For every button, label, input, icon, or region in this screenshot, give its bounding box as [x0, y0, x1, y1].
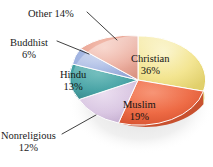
pie-label-christian: Christian 36% — [131, 53, 170, 76]
pie-label-other-text: Other 14% — [28, 8, 74, 19]
pie-label-muslim-value: 19% — [123, 111, 156, 123]
pie-label-muslim-name: Muslim — [123, 99, 156, 111]
pie-label-buddhist-name: Buddhist — [10, 37, 48, 49]
pie-label-christian-value: 36% — [131, 65, 170, 77]
pie-label-nonreligious-value: 12% — [1, 142, 56, 154]
leader-line-other — [87, 12, 117, 40]
pie-label-hindu: Hindu 13% — [60, 69, 86, 92]
pie-chart-figure: Other 14% Buddhist 6% Nonreligious 12% C… — [0, 0, 213, 167]
pie-label-buddhist-value: 6% — [10, 49, 48, 61]
pie-label-nonreligious: Nonreligious 12% — [1, 130, 56, 153]
pie-label-hindu-value: 13% — [60, 81, 86, 93]
pie-label-muslim: Muslim 19% — [123, 99, 156, 122]
pie-label-nonreligious-name: Nonreligious — [1, 130, 56, 142]
pie-label-hindu-name: Hindu — [60, 69, 86, 81]
pie-label-other: Other 14% — [28, 8, 74, 20]
pie-label-buddhist: Buddhist 6% — [10, 37, 48, 60]
pie-label-christian-name: Christian — [131, 53, 170, 65]
